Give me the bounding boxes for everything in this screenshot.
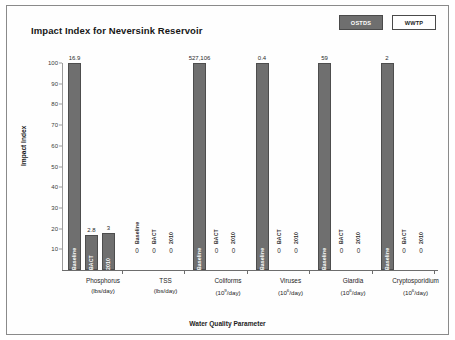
- y-axis-tick-mark: [59, 166, 62, 167]
- bar-series-label: Baseline: [381, 236, 394, 270]
- bar-series-label: 2010: [102, 236, 115, 270]
- x-axis-tick-mark: [372, 270, 373, 274]
- y-axis-tick-mark: [59, 187, 62, 188]
- y-axis-tick-mark: [59, 83, 62, 84]
- bar-series-label: BACT: [335, 218, 348, 244]
- bar-value-label: 2: [367, 55, 407, 61]
- bar-series-label: 2010: [415, 218, 428, 244]
- y-axis-tick-mark: [59, 228, 62, 229]
- bar-value-label: 3: [89, 225, 129, 231]
- y-axis-tick-mark: [59, 145, 62, 146]
- legend-item-ostds[interactable]: OSTDS: [339, 15, 383, 30]
- bar-series-label: Baseline: [318, 236, 331, 270]
- category-name: Coliforms: [215, 277, 242, 284]
- bar-series-label: Baseline: [68, 236, 81, 270]
- bar-series-label: BACT: [85, 236, 98, 270]
- y-axis-tick-label: 30: [51, 205, 58, 211]
- y-axis-tick-mark: [59, 63, 62, 64]
- legend-label-ostds: OSTDS: [351, 20, 371, 26]
- y-axis-label: Impact Index: [20, 126, 27, 166]
- bar-series-label: Baseline: [193, 236, 206, 270]
- y-axis-tick-label: 70: [51, 122, 58, 128]
- y-axis-tick-label: 80: [51, 101, 58, 107]
- bar-group: Baseline527,106BACT020100: [193, 63, 256, 270]
- bar-value-label: 0: [224, 247, 244, 254]
- bar-series-label: Baseline: [256, 236, 269, 270]
- bar-series-label: BACT: [273, 218, 286, 244]
- bar-value-label: 527,106: [180, 55, 220, 61]
- bar-value-label: 0.4: [242, 55, 282, 61]
- x-axis-tick-mark: [122, 270, 123, 274]
- x-axis-tick-mark: [309, 270, 310, 274]
- bar-series-label: Baseline: [131, 218, 144, 244]
- bar-value-label: 0: [349, 247, 369, 254]
- y-axis-tick-mark: [59, 249, 62, 250]
- bar-series-label: BACT: [398, 218, 411, 244]
- bar-series-label: 2010: [227, 218, 240, 244]
- x-axis-category-label: Cryptosporidium(106/day): [368, 276, 455, 297]
- y-axis-tick-label: 40: [51, 184, 58, 190]
- bar-series-label: 2010: [352, 218, 365, 244]
- plot-area: 100908070605040302010Baseline16.9BACT2.8…: [62, 63, 437, 270]
- bar-group: Baseline16.9BACT2.820103: [68, 63, 131, 270]
- category-name: TSS: [159, 277, 171, 284]
- y-axis-tick-mark: [59, 207, 62, 208]
- bar-series-label: 2010: [290, 218, 303, 244]
- x-axis-line: [62, 270, 438, 271]
- y-axis-tick-mark: [59, 125, 62, 126]
- y-axis-tick-label: 20: [51, 226, 58, 232]
- bar-group: Baseline59BACT020100: [318, 63, 381, 270]
- x-axis-label: Water Quality Parameter: [7, 320, 448, 327]
- y-axis-tick-mark: [59, 104, 62, 105]
- y-axis-tick-label: 90: [51, 81, 58, 87]
- bar-value-label: 16.9: [55, 55, 95, 61]
- category-name: Giardia: [343, 277, 364, 284]
- chart-legend: OSTDS WWTP: [339, 15, 436, 30]
- bar-series-label: BACT: [210, 218, 223, 244]
- chart-title: Impact Index for Neversink Reservoir: [31, 25, 203, 36]
- x-axis-tick-mark: [184, 270, 185, 274]
- bar-series-label: 2010: [165, 218, 178, 244]
- category-unit: (106/day): [368, 286, 455, 298]
- bar-value-label: 0: [286, 247, 306, 254]
- category-name: Phosphorus: [86, 277, 120, 284]
- y-axis-tick-label: 10: [51, 246, 58, 252]
- bar-value-label: 0: [161, 247, 181, 254]
- category-name: Viruses: [280, 277, 301, 284]
- bar-group: Baseline2BACT020100: [381, 63, 444, 270]
- y-axis-tick-label: 60: [51, 143, 58, 149]
- legend-item-wwtp[interactable]: WWTP: [392, 15, 436, 30]
- x-axis-tick-mark: [247, 270, 248, 274]
- x-axis-tick-mark: [434, 270, 435, 274]
- bar-value-label: 59: [305, 55, 345, 61]
- category-name: Cryptosporidium: [392, 277, 439, 284]
- y-axis-tick-label: 50: [51, 164, 58, 170]
- bar-series-label: BACT: [148, 218, 161, 244]
- legend-label-wwtp: WWTP: [405, 20, 424, 26]
- bar-group: Baseline0.4BACT020100: [256, 63, 319, 270]
- bar-value-label: 0: [411, 247, 431, 254]
- bar-group: Baseline0BACT020100: [131, 63, 194, 270]
- chart-frame: Impact Index for Neversink Reservoir OST…: [6, 5, 449, 335]
